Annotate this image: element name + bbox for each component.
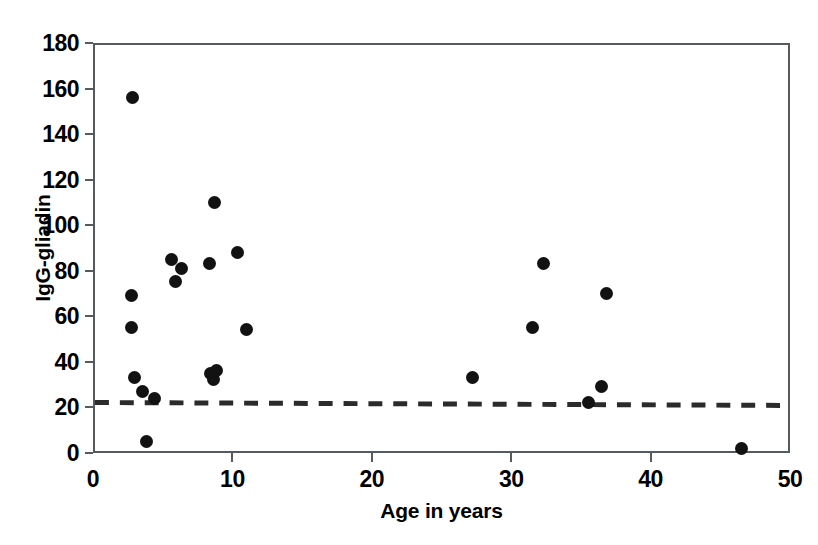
y-tick-label: 80 — [54, 256, 79, 286]
x-axis-title: Age in years — [93, 497, 790, 525]
data-point — [140, 435, 153, 448]
data-point — [210, 364, 223, 377]
x-tick-label: 40 — [638, 465, 663, 493]
x-tick-label: 30 — [499, 465, 524, 493]
y-tick-mark — [85, 224, 93, 226]
data-point — [126, 91, 139, 104]
x-tick-label: 0 — [87, 465, 99, 493]
data-point — [208, 196, 221, 209]
y-tick-label: 20 — [54, 392, 79, 422]
data-point — [128, 371, 141, 384]
data-point — [175, 262, 188, 275]
y-tick-label: 40 — [54, 347, 79, 377]
data-point — [537, 257, 550, 270]
x-tick-label: 50 — [778, 465, 803, 493]
figure-title — [93, 0, 790, 14]
x-tick-label: 10 — [220, 465, 245, 493]
y-tick-label: 60 — [54, 301, 79, 331]
y-tick-mark — [85, 42, 93, 44]
y-tick-mark — [85, 315, 93, 317]
data-point — [148, 392, 161, 405]
y-tick-mark — [85, 88, 93, 90]
x-tick-mark — [510, 453, 512, 462]
data-point — [169, 275, 182, 288]
x-tick-mark — [371, 453, 373, 462]
y-tick-mark — [85, 270, 93, 272]
data-point — [125, 289, 138, 302]
data-point — [595, 380, 608, 393]
data-point — [526, 321, 539, 334]
x-tick-mark — [231, 453, 233, 462]
data-point — [600, 287, 613, 300]
x-tick-mark — [650, 453, 652, 462]
data-point — [582, 396, 595, 409]
data-point — [125, 321, 138, 334]
data-point — [231, 246, 244, 259]
y-tick-mark — [85, 179, 93, 181]
y-tick-mark — [85, 406, 93, 408]
y-tick-mark — [85, 361, 93, 363]
data-point — [466, 371, 479, 384]
data-point — [240, 323, 253, 336]
x-tick-label: 20 — [360, 465, 385, 493]
data-point — [203, 257, 216, 270]
y-tick-mark — [85, 133, 93, 135]
data-point — [136, 385, 149, 398]
scatter-chart-figure: 020406080100120140160180 01020304050 IgG… — [0, 0, 818, 545]
y-axis-title: IgG-gliadin — [28, 43, 58, 453]
data-points-layer — [95, 45, 788, 451]
plot-area — [93, 43, 790, 453]
